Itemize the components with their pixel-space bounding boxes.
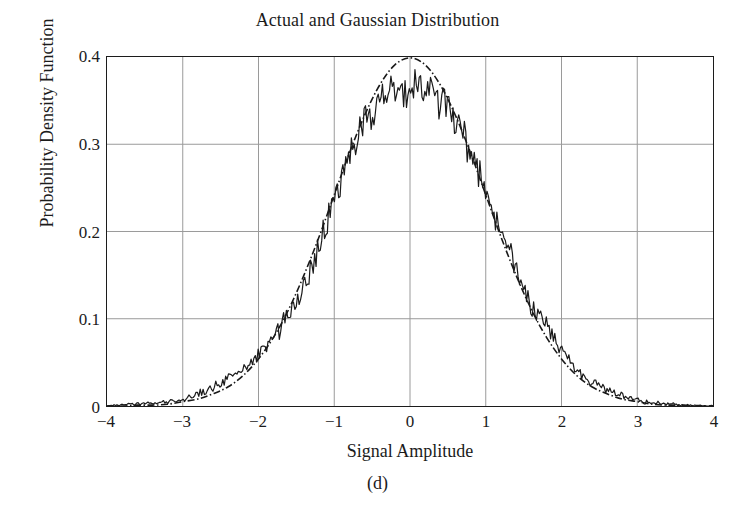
gridlines <box>107 57 713 406</box>
y-axis-tick-label: 0.3 <box>52 136 100 153</box>
x-axis-tick-labels: −4−3−2−101234 <box>106 413 714 435</box>
x-axis-label: Signal Amplitude <box>106 441 714 462</box>
x-axis-tick-label: −1 <box>309 413 359 430</box>
x-axis-tick-label: 0 <box>385 413 435 430</box>
chart-title: Actual and Gaussian Distribution <box>0 10 755 31</box>
x-axis-tick-label: 2 <box>537 413 587 430</box>
y-axis-tick-label: 0.2 <box>52 224 100 241</box>
x-axis-tick-label: 3 <box>613 413 663 430</box>
x-axis-tick-label: 4 <box>689 413 739 430</box>
x-axis-tick-label: −4 <box>81 413 131 430</box>
x-axis-tick-label: −2 <box>233 413 283 430</box>
plot-area <box>106 56 714 407</box>
y-axis-tick-label: 0.4 <box>52 48 100 65</box>
x-axis-tick-label: 1 <box>461 413 511 430</box>
y-axis-tick-labels: 00.10.20.30.4 <box>44 56 100 407</box>
figure-caption: (d) <box>0 473 755 494</box>
x-axis-tick-label: −3 <box>157 413 207 430</box>
y-axis-tick-label: 0.1 <box>52 311 100 328</box>
figure-container: Actual and Gaussian Distribution Probabi… <box>0 0 755 513</box>
plot-canvas <box>107 57 713 406</box>
